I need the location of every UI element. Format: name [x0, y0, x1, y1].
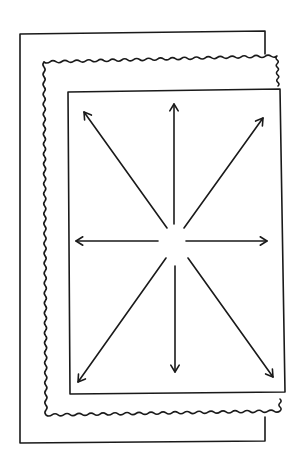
wavy-sheet-top: [44, 55, 279, 86]
arrow-up: [170, 104, 178, 224]
arrow-shaft: [188, 258, 273, 377]
wavy-sheet: [43, 55, 281, 416]
arrow-right: [186, 237, 267, 245]
arrow-left: [76, 237, 158, 245]
outer-frame: [20, 31, 265, 443]
arrow-up-left: [84, 112, 167, 228]
arrow-down: [171, 266, 179, 372]
arrow-shaft: [78, 258, 166, 382]
expansion-diagram: [0, 0, 297, 459]
arrow-up-right: [184, 118, 263, 228]
arrow-group: [76, 104, 273, 382]
arrow-down-left: [78, 258, 166, 382]
arrow-shaft: [184, 118, 263, 228]
outer-frame-outline: [20, 31, 265, 443]
arrow-down-right: [188, 258, 273, 377]
diagram-canvas: [0, 0, 297, 459]
arrow-shaft: [84, 112, 167, 228]
